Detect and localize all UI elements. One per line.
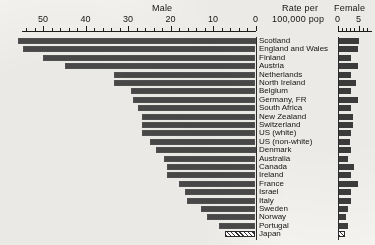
female-bar <box>338 122 353 128</box>
male-bar <box>23 46 255 52</box>
male-axis-tick-label: 30 <box>116 14 140 24</box>
male-axis-minor-tick <box>162 28 163 31</box>
category-label: Israel <box>259 188 279 196</box>
male-axis-minor-tick <box>154 28 155 31</box>
male-bar <box>138 105 256 111</box>
male-axis-line <box>22 31 256 32</box>
female-bar <box>338 130 352 136</box>
male-axis-major-tick <box>128 26 129 31</box>
male-axis-major-tick <box>213 26 214 31</box>
female-bar <box>338 156 348 162</box>
male-bar <box>179 181 255 187</box>
female-bar <box>338 88 351 94</box>
female-bar <box>338 206 349 212</box>
male-bar <box>131 88 256 94</box>
category-label: Denmark <box>259 146 291 154</box>
male-bar <box>142 130 255 136</box>
male-bar <box>225 231 255 237</box>
male-bar <box>167 164 255 170</box>
male-bar <box>43 55 256 61</box>
female-bar <box>338 223 348 229</box>
male-axis-minor-tick <box>120 28 121 31</box>
male-axis-tick-label: 20 <box>159 14 183 24</box>
male-axis-minor-tick <box>69 28 70 31</box>
mortality-rate-bar-chart: Male Rate per 100,000 pop Female 5040302… <box>0 0 375 245</box>
female-axis-minor-tick <box>363 28 364 31</box>
male-axis-tick-label: 10 <box>201 14 225 24</box>
female-axis-minor-tick <box>346 28 347 31</box>
female-bar <box>338 172 351 178</box>
female-bar <box>338 147 351 153</box>
male-bar <box>150 139 256 145</box>
male-axis-minor-tick <box>52 28 53 31</box>
female-axis-minor-tick <box>350 28 351 31</box>
category-label: Japan <box>259 230 281 238</box>
male-bar <box>114 72 256 78</box>
male-axis-minor-tick <box>60 28 61 31</box>
female-bar <box>338 181 358 187</box>
female-bar <box>338 231 345 237</box>
male-bar <box>142 122 255 128</box>
male-bar <box>167 172 255 178</box>
male-bar <box>207 214 255 220</box>
female-axis-minor-tick <box>342 28 343 31</box>
male-bar <box>142 114 255 120</box>
male-axis-minor-tick <box>137 28 138 31</box>
male-axis-minor-tick <box>26 28 27 31</box>
male-axis-minor-tick <box>239 28 240 31</box>
female-bar <box>338 72 352 78</box>
male-axis-tick-label: 0 <box>244 14 268 24</box>
male-axis-minor-tick <box>103 28 104 31</box>
male-axis-tick-label: 50 <box>31 14 55 24</box>
male-axis-minor-tick <box>196 28 197 31</box>
female-bar <box>338 139 350 145</box>
male-bar <box>219 223 256 229</box>
female-axis-line <box>338 31 373 32</box>
category-label: South Africa <box>259 104 302 112</box>
male-axis-major-tick <box>171 26 172 31</box>
male-axis-minor-tick <box>145 28 146 31</box>
female-bar <box>338 80 357 86</box>
female-bar <box>338 214 347 220</box>
male-bar <box>187 198 256 204</box>
male-bar <box>65 63 256 69</box>
male-axis-minor-tick <box>77 28 78 31</box>
male-axis-major-tick <box>43 26 44 31</box>
male-bar <box>18 38 256 44</box>
male-axis-minor-tick <box>188 28 189 31</box>
male-axis-tick-label: 40 <box>74 14 98 24</box>
male-bar <box>133 97 256 103</box>
female-bar <box>338 63 358 69</box>
male-bar <box>114 80 256 86</box>
male-axis-minor-tick <box>205 28 206 31</box>
rate-unit-line1: Rate per <box>282 3 318 13</box>
male-axis-minor-tick <box>247 28 248 31</box>
male-axis-major-tick <box>86 26 87 31</box>
male-axis-minor-tick <box>230 28 231 31</box>
male-bar <box>164 156 256 162</box>
female-axis-minor-tick <box>354 28 355 31</box>
male-axis-minor-tick <box>111 28 112 31</box>
female-baseline-rule <box>338 37 339 240</box>
male-bar <box>201 206 256 212</box>
female-bar <box>338 164 355 170</box>
female-bar <box>338 189 352 195</box>
female-bar <box>338 105 352 111</box>
female-axis-tick-label: 5 <box>347 14 371 24</box>
female-bar <box>338 46 358 52</box>
category-label: Austria <box>259 62 284 70</box>
male-bar <box>156 147 256 153</box>
female-axis-major-tick <box>338 26 339 31</box>
female-axis-major-tick <box>359 26 360 31</box>
male-axis-minor-tick <box>94 28 95 31</box>
male-bar <box>185 189 256 195</box>
female-bar <box>338 38 359 44</box>
male-axis-major-tick <box>256 26 257 31</box>
male-axis-minor-tick <box>35 28 36 31</box>
rate-unit-line2: 100,000 pop <box>272 14 324 24</box>
female-bar <box>338 198 351 204</box>
female-bar <box>338 55 352 61</box>
female-bar <box>338 97 358 103</box>
female-bar <box>338 114 353 120</box>
female-panel-title: Female <box>334 3 365 13</box>
